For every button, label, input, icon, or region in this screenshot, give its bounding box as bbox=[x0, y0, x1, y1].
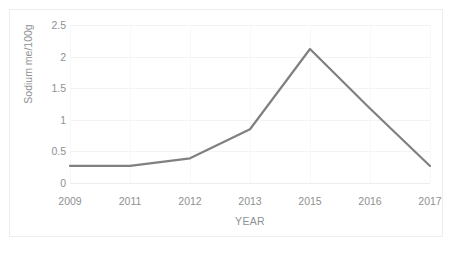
x-tick-label-2017: 2017 bbox=[403, 196, 457, 207]
x-tick-label-2012: 2012 bbox=[163, 196, 217, 207]
chart-container: 00.511.522.5 Sodium me/100g 200920112012… bbox=[9, 9, 443, 237]
gridline-x-2017 bbox=[430, 25, 431, 183]
y-tick-label-0.5: 0.5 bbox=[20, 146, 66, 157]
x-tick-label-2011: 2011 bbox=[103, 196, 157, 207]
x-axis-title: YEAR bbox=[70, 215, 430, 227]
x-tick-label-2016: 2016 bbox=[343, 196, 397, 207]
x-tick-label-2009: 2009 bbox=[43, 196, 97, 207]
gridline-y-0 bbox=[70, 183, 430, 184]
series-line-sodium bbox=[70, 25, 430, 183]
y-axis-title: Sodium me/100g bbox=[22, 4, 34, 124]
x-tick-label-2013: 2013 bbox=[223, 196, 277, 207]
x-tick-label-2015: 2015 bbox=[283, 196, 337, 207]
x-axis-tick-labels: 2009201120122013201520162017 bbox=[70, 196, 430, 212]
y-tick-label-0: 0 bbox=[20, 178, 66, 189]
plot-area bbox=[70, 25, 430, 183]
